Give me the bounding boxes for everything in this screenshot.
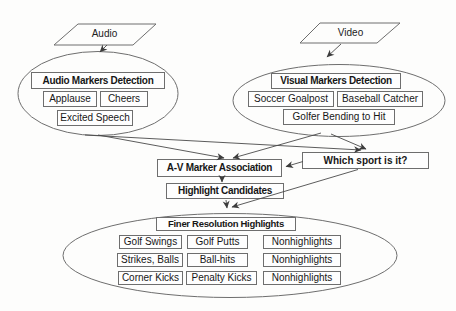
which-sport-box: Which sport is it? [302, 152, 429, 169]
arrow-candidates-to-finer-ellipse [226, 200, 227, 208]
nonhighlights-box-3: Nonhighlights [263, 271, 341, 285]
ball-hits-box: Ball-hits [187, 253, 248, 267]
audio-input-label: Audio [72, 25, 137, 43]
audio-markers-detection-box: Audio Markers Detection [31, 72, 165, 89]
applause-box: Applause [43, 91, 97, 107]
corner-kicks-box: Corner Kicks [118, 271, 183, 285]
penalty-kicks-box: Penalty Kicks [186, 271, 257, 285]
excited-speech-box: Excited Speech [57, 110, 133, 126]
nonhighlights-box-1: Nonhighlights [263, 235, 341, 249]
golfer-bending-box: Golfer Bending to Hit [283, 109, 395, 125]
arrow-video-to-video-ellipse [327, 44, 341, 57]
golf-putts-box: Golf Putts [187, 235, 248, 249]
visual-markers-detection-box: Visual Markers Detection [271, 73, 401, 89]
arrow-audio-ellipse-to-which-sport [85, 135, 361, 150]
golf-swings-box: Golf Swings [119, 235, 182, 249]
baseball-catcher-box: Baseball Catcher [337, 91, 423, 107]
soccer-goalpost-box: Soccer Goalpost [248, 91, 334, 107]
nonhighlights-box-2: Nonhighlights [263, 253, 341, 267]
arrow-which-sport-to-association [286, 162, 303, 167]
arrow-video-ellipse-to-which-sport [331, 134, 366, 149]
cheers-box: Cheers [100, 91, 148, 107]
arrow-audio-ellipse-to-association [98, 135, 224, 158]
video-input-label: Video [318, 24, 383, 42]
arrow-audio-to-audio-ellipse [100, 45, 107, 52]
av-marker-association-box: A-V Marker Association [157, 159, 282, 177]
highlight-candidates-box: Highlight Candidates [166, 183, 284, 199]
flowchart-canvas: Audio Video Audio Markers Detection Appl… [0, 0, 456, 311]
finer-resolution-title-box: Finer Resolution Highlights [156, 217, 296, 231]
strikes-balls-box: Strikes, Balls [117, 253, 183, 267]
